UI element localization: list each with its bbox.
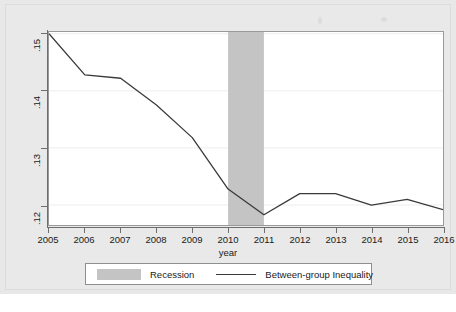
x-tick-2007 [120, 228, 121, 233]
x-tick-2005 [48, 228, 49, 233]
legend: Recession Between-group Inequality [85, 263, 372, 285]
plot-canvas [49, 32, 443, 225]
x-axis-title: year [0, 247, 456, 258]
legend-item-recession: Recession [97, 264, 194, 284]
x-tick-label-2005: 2005 [37, 234, 58, 245]
caption-band [0, 294, 456, 312]
x-tick-2006 [84, 228, 85, 233]
x-tick-2011 [264, 228, 265, 233]
x-tick-label-2007: 2007 [109, 234, 130, 245]
x-tick-label-2015: 2015 [397, 234, 418, 245]
recession-swatch-icon [97, 269, 141, 280]
x-tick-label-2011: 2011 [254, 234, 274, 245]
x-axis-line [47, 227, 445, 228]
figure-region: .15.14.13.12 200520062007200820092010201… [0, 0, 456, 294]
x-tick-2008 [156, 228, 157, 233]
y-tick-label-.15: .15 [31, 32, 42, 58]
x-tick-label-2012: 2012 [289, 234, 310, 245]
x-tick-2016 [444, 228, 445, 233]
x-tick-label-2009: 2009 [181, 234, 202, 245]
x-tick-label-2006: 2006 [73, 234, 94, 245]
recession-band-group [228, 32, 264, 225]
x-tick-label-2014: 2014 [361, 234, 382, 245]
y-tick-label-.12: .12 [31, 205, 42, 231]
x-tick-label-2008: 2008 [145, 234, 166, 245]
y-tick-.12 [41, 206, 47, 207]
x-tick-2015 [408, 228, 409, 233]
y-tick-label-.14: .14 [31, 90, 42, 116]
x-tick-2013 [336, 228, 337, 233]
x-tick-2014 [372, 228, 373, 233]
x-tick-2012 [300, 228, 301, 233]
shaded-band-recession [228, 32, 264, 225]
y-tick-.15 [41, 33, 47, 34]
plot-area [48, 31, 444, 226]
legend-label-inequality: Between-group Inequality [265, 269, 373, 280]
scan-smudge-2 [381, 17, 387, 22]
x-tick-label-2013: 2013 [325, 234, 346, 245]
legend-label-recession: Recession [150, 269, 194, 280]
x-tick-2009 [192, 228, 193, 233]
line-segment-icon [216, 274, 256, 275]
y-tick-.13 [41, 148, 47, 149]
y-tick-.14 [41, 90, 47, 91]
x-tick-label-2010: 2010 [217, 234, 238, 245]
y-tick-label-.13: .13 [31, 148, 42, 174]
y-axis-line [47, 30, 48, 227]
x-tick-2010 [228, 228, 229, 233]
legend-item-inequality: Between-group Inequality [216, 264, 373, 284]
x-tick-label-2016: 2016 [433, 234, 454, 245]
scan-smudge-1 [318, 17, 322, 24]
